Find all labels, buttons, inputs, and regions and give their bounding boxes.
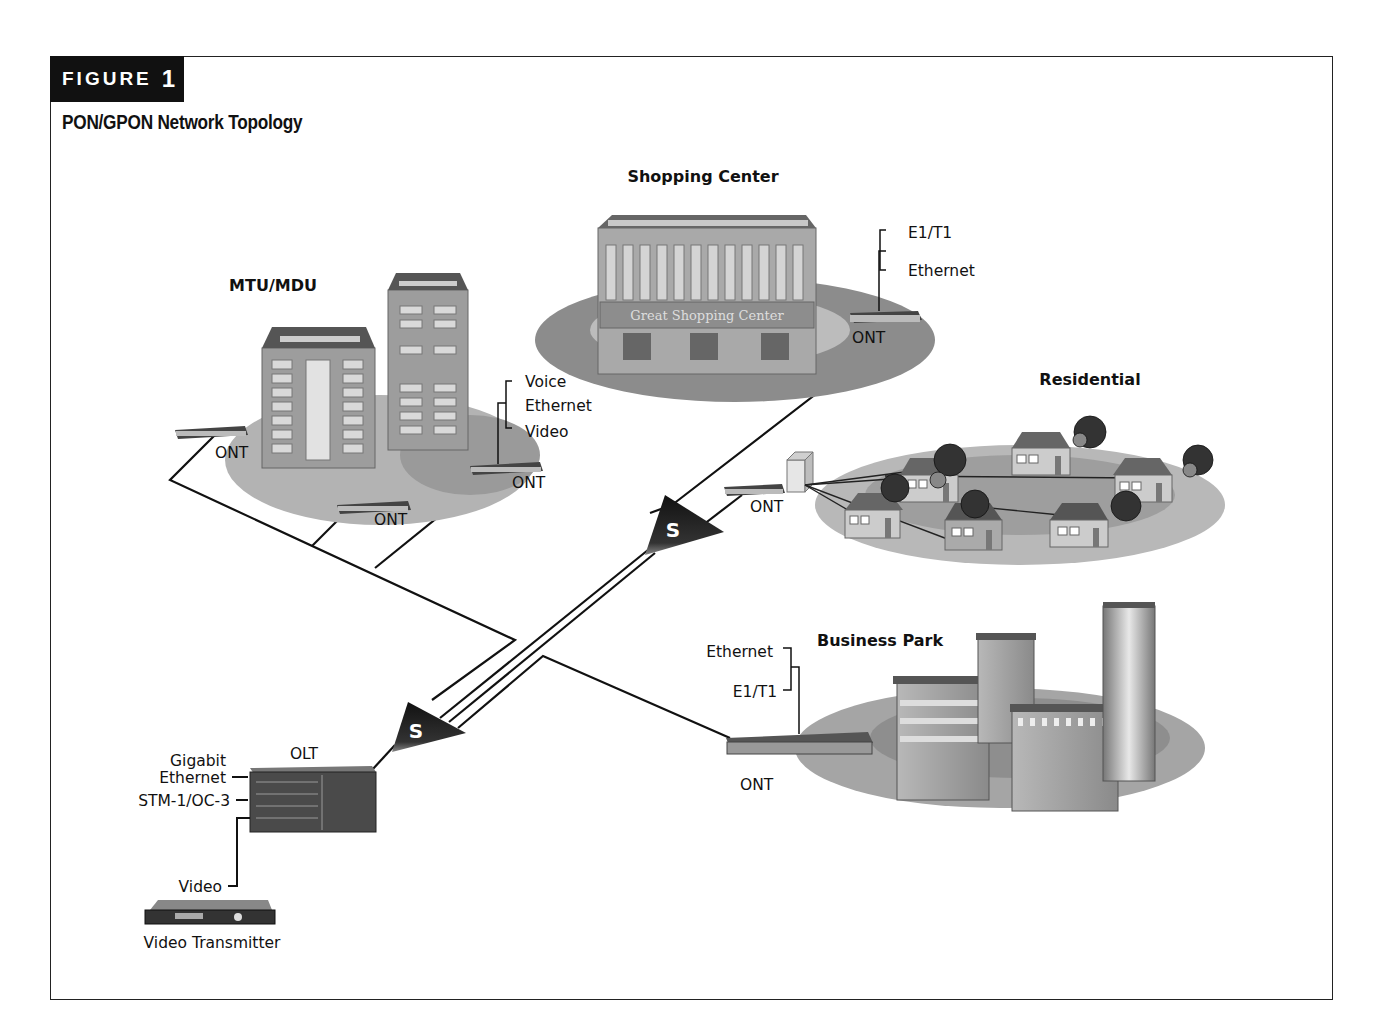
olt-input-stm1-oc3: STM-1/OC-3 bbox=[138, 792, 230, 810]
business-park-heading: Business Park bbox=[817, 631, 943, 650]
site-residential: Residential ONT bbox=[724, 370, 1225, 565]
olt-chassis-icon bbox=[250, 766, 376, 832]
olt-input-gigabit: Gigabit bbox=[170, 752, 226, 770]
house-icon bbox=[1050, 503, 1108, 547]
shopping-center-ont-label: ONT bbox=[852, 329, 886, 347]
splitter-icon: S bbox=[392, 702, 466, 752]
house-icon bbox=[1012, 432, 1070, 475]
shopping-center-heading: Shopping Center bbox=[627, 167, 778, 186]
business-park-service-ethernet: Ethernet bbox=[706, 643, 773, 661]
video-transmitter-icon bbox=[145, 900, 275, 924]
ont-device-icon bbox=[724, 484, 785, 496]
mtu-service-video: Video bbox=[525, 423, 568, 441]
residential-heading: Residential bbox=[1039, 370, 1140, 389]
site-mtu-mdu: MTU/MDU ONT ONT ONT Voice Ethernet Video bbox=[175, 273, 592, 529]
splitter-label-bottom: S bbox=[409, 719, 423, 743]
business-park-service-e1t1: E1/T1 bbox=[733, 683, 777, 701]
splitter-label-top: S bbox=[666, 518, 680, 542]
site-shopping-center: Great Shopping Center Shopping Center ON… bbox=[535, 167, 975, 402]
ont-switch-icon bbox=[726, 732, 873, 754]
residential-ont-label: ONT bbox=[750, 498, 784, 516]
shopping-center-service-ethernet: Ethernet bbox=[908, 262, 975, 280]
mtu-mdu-heading: MTU/MDU bbox=[229, 276, 317, 295]
olt-label: OLT bbox=[290, 745, 319, 763]
central-office: OLT Gigabit Ethernet STM-1/OC-3 Video Vi… bbox=[138, 745, 376, 952]
mtu-service-voice: Voice bbox=[525, 373, 566, 391]
olt-input-ethernet: Ethernet bbox=[159, 769, 226, 787]
shopping-center-sign: Great Shopping Center bbox=[630, 308, 784, 323]
video-input-label: Video bbox=[179, 878, 222, 896]
mtu-ont-label-2: ONT bbox=[374, 511, 408, 529]
video-transmitter-label: Video Transmitter bbox=[144, 934, 281, 952]
business-park-ont-label: ONT bbox=[740, 776, 774, 794]
mtu-ont-label-1: ONT bbox=[215, 444, 249, 462]
ont-device-icon bbox=[850, 311, 922, 323]
network-topology-diagram: Great Shopping Center Shopping Center ON… bbox=[0, 0, 1382, 1032]
mtu-service-ethernet: Ethernet bbox=[525, 397, 592, 415]
service-bracket-icon bbox=[783, 648, 799, 734]
site-business-park: Business Park ONT Ethernet E1/T1 bbox=[706, 602, 1205, 811]
shopping-center-service-e1t1: E1/T1 bbox=[908, 224, 952, 242]
splitter-icon: S bbox=[645, 495, 724, 555]
mtu-ont-label-3: ONT bbox=[512, 474, 546, 492]
